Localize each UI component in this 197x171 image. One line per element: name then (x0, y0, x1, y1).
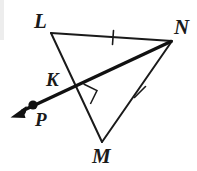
arrowhead-icon (11, 106, 27, 118)
vertex-label-N: N (174, 17, 189, 38)
tick-mark-LN (113, 31, 114, 45)
vertex-label-L: L (34, 11, 47, 32)
right-angle-marker (84, 84, 97, 104)
ray-NP (22, 41, 172, 111)
vertex-label-P: P (35, 110, 47, 129)
segment-LN (51, 33, 172, 41)
vertex-label-M: M (92, 146, 111, 167)
vertex-label-K: K (46, 70, 59, 89)
geometry-figure: L N K P M (0, 0, 197, 171)
